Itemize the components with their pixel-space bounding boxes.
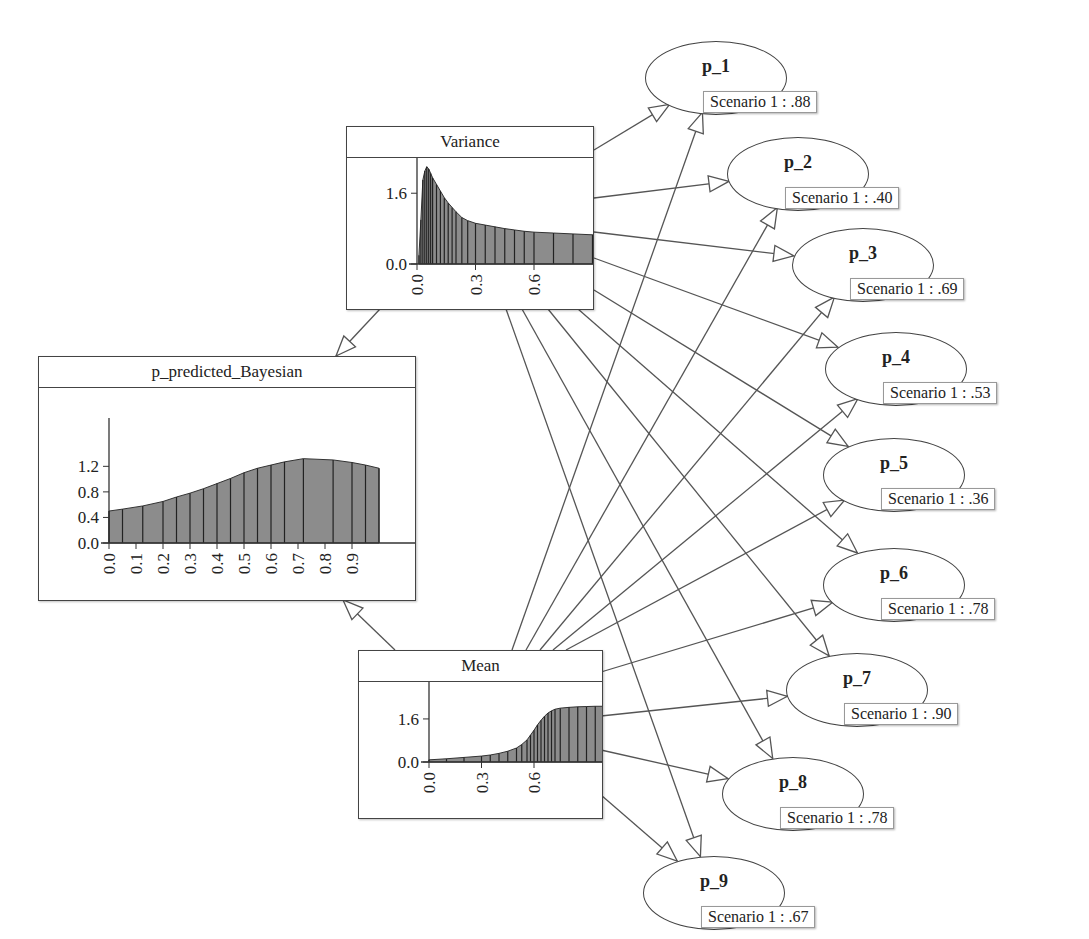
network-canvas: Variance 0.01.60.00.30.6 p_predicted_Bay… (0, 0, 1089, 939)
p-7-label: p_7 (787, 668, 927, 689)
svg-text:0.6: 0.6 (262, 553, 281, 574)
mean-node[interactable]: Mean 0.01.60.00.30.6 (358, 650, 603, 819)
p-predicted-bayesian-node-title: p_predicted_Bayesian (39, 357, 415, 388)
mean-node-title: Mean (359, 651, 602, 682)
svg-text:1.6: 1.6 (398, 710, 419, 729)
variance-node-title: Variance (347, 127, 593, 158)
p-2-evidence-badge: Scenario 1 : .40 (785, 187, 899, 209)
svg-text:0.3: 0.3 (181, 553, 200, 574)
p-3-label: p_3 (793, 243, 933, 264)
svg-text:0.3: 0.3 (473, 772, 492, 793)
svg-text:0.6: 0.6 (525, 274, 544, 295)
svg-text:0.8: 0.8 (316, 553, 335, 574)
p-6-evidence-badge: Scenario 1 : .78 (881, 598, 995, 620)
svg-text:0.2: 0.2 (154, 553, 173, 574)
p-1-evidence-badge: Scenario 1 : .88 (703, 91, 817, 113)
svg-text:0.3: 0.3 (467, 274, 486, 295)
p-6-label: p_6 (824, 563, 964, 584)
p-3-evidence-badge: Scenario 1 : .69 (850, 278, 964, 300)
svg-text:0.0: 0.0 (408, 274, 427, 295)
p-8-label: p_8 (723, 772, 863, 793)
svg-text:1.2: 1.2 (78, 457, 99, 476)
p-9-evidence-badge: Scenario 1 : .67 (701, 906, 815, 928)
mean-distribution-chart: 0.01.60.00.30.6 (359, 682, 602, 817)
svg-text:0.7: 0.7 (289, 553, 308, 575)
svg-text:0.5: 0.5 (235, 553, 254, 574)
p-predicted-bayesian-node[interactable]: p_predicted_Bayesian 0.00.40.81.20.00.10… (38, 356, 416, 601)
svg-text:0.8: 0.8 (78, 483, 99, 502)
svg-text:0.0: 0.0 (78, 534, 99, 553)
p-5-label: p_5 (824, 453, 964, 474)
svg-text:0.9: 0.9 (343, 553, 362, 574)
svg-text:0.4: 0.4 (78, 508, 100, 527)
p-4-label: p_4 (826, 347, 966, 368)
p-7-evidence-badge: Scenario 1 : .90 (844, 703, 958, 725)
p-8-evidence-badge: Scenario 1 : .78 (780, 807, 894, 829)
svg-text:1.6: 1.6 (386, 184, 407, 203)
variance-node[interactable]: Variance 0.01.60.00.30.6 (346, 126, 594, 310)
svg-text:0.0: 0.0 (100, 553, 119, 574)
svg-text:0.0: 0.0 (386, 255, 407, 274)
p-predicted-bayesian-distribution-chart: 0.00.40.81.20.00.10.20.30.40.50.60.70.80… (39, 388, 415, 599)
p-9-label: p_9 (644, 871, 784, 892)
svg-text:0.0: 0.0 (420, 772, 439, 793)
p-5-evidence-badge: Scenario 1 : .36 (881, 488, 995, 510)
p-2-label: p_2 (728, 152, 868, 173)
variance-distribution-chart: 0.01.60.00.30.6 (347, 158, 593, 308)
svg-text:0.1: 0.1 (127, 553, 146, 574)
p-1-label: p_1 (646, 56, 786, 77)
p-4-evidence-badge: Scenario 1 : .53 (883, 382, 997, 404)
svg-text:0.0: 0.0 (398, 753, 419, 772)
svg-text:0.6: 0.6 (525, 772, 544, 793)
svg-text:0.4: 0.4 (208, 553, 227, 575)
